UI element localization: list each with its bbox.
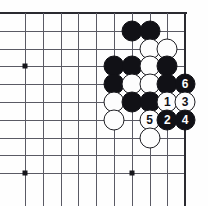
star-point [23, 171, 28, 176]
grid-line-horizontal [0, 155, 186, 156]
stone-move-number: 5 [146, 113, 153, 125]
grid-line-vertical [43, 13, 44, 206]
go-board-diagram: 613524 [0, 0, 208, 206]
star-point [23, 64, 28, 69]
stone-move-number: 1 [164, 96, 171, 108]
grid-line-vertical [61, 13, 62, 206]
grid-line-vertical [96, 13, 97, 206]
stone-move-number: 4 [182, 113, 189, 125]
grid-line-horizontal [0, 173, 186, 174]
stone-move-number: 3 [182, 96, 189, 108]
stone-white [104, 109, 125, 130]
stone-move-number: 6 [182, 78, 189, 90]
grid-line-vertical [78, 13, 79, 206]
stone-black-move-4: 4 [175, 109, 196, 130]
grid-line-vertical [25, 13, 26, 206]
stone-move-number: 2 [164, 113, 171, 125]
board-edge-top [0, 12, 187, 14]
stone-white [139, 127, 160, 148]
star-point [129, 171, 134, 176]
